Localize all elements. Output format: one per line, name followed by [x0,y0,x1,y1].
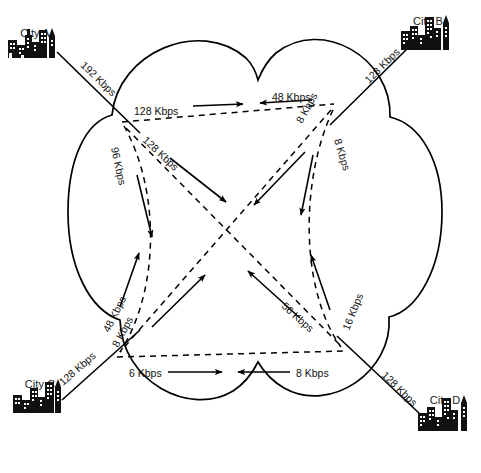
label-layer: 192 Kbps 128 Kbps 128 Kbps 128 Kbps 128 … [0,0,481,473]
city-node-a[interactable]: City A [8,26,62,39]
city-skyline-icon [13,377,65,413]
label-bottom-forward: 6 Kbps [129,367,162,379]
city-node-b[interactable]: City B [401,14,455,27]
label-access-b: 128 Kbps [362,46,402,86]
city-skyline-icon [401,14,453,50]
city-skyline-icon [8,26,58,58]
label-access-d: 128 Kbps [380,369,420,408]
label-left-down: 96 Kbps [109,146,129,186]
label-right-up: 16 Kbps [340,292,366,332]
label-right-down: 8 Kbps [332,137,353,172]
label-access-a: 192 Kbps [79,59,119,98]
city-node-c[interactable]: City C [13,377,67,390]
label-top-forward: 128 Kbps [134,105,178,117]
city-skyline-icon [418,393,472,431]
label-diag-da: 56 Kbps [280,300,317,335]
label-bottom-reverse: 8 Kbps [296,367,329,379]
label-diag-ad: 128 Kbps [141,134,182,173]
city-node-d[interactable]: City D [418,393,472,406]
network-diagram-canvas: 192 Kbps 128 Kbps 128 Kbps 128 Kbps 128 … [0,0,481,473]
